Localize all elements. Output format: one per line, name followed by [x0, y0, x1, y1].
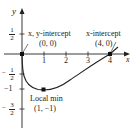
y-tick-half: 1 2 [8, 27, 16, 42]
origin-annotation-title: x, y-intercept [28, 30, 71, 38]
x-tick-4: 4 [108, 57, 112, 65]
x-tick-2: 2 [64, 57, 68, 65]
origin-annotation-coords: (0, 0) [39, 40, 56, 48]
y-axis-label: y [12, 7, 16, 16]
x-tick-3: 3 [86, 57, 90, 65]
x-axis-label: x [126, 56, 130, 64]
xint-annotation-title: x-intercept [86, 30, 121, 38]
y-tick-neg-half-sign: − [2, 70, 6, 77]
local-min-annotation-title: Local min [30, 95, 63, 103]
y-tick-neg-3half-sign: − [2, 105, 6, 112]
local-min-point [42, 88, 46, 92]
y-tick-neg-1: −1 [4, 85, 13, 93]
function-graph [0, 0, 134, 130]
function-curve [22, 47, 118, 90]
xint-annotation-coords: (4, 0) [95, 40, 112, 48]
y-axis-arrow-icon [20, 8, 25, 14]
y-tick-neg-half: 1 2 [8, 67, 16, 82]
origin-point [20, 52, 24, 56]
y-tick-neg-3half: 3 2 [8, 102, 16, 117]
local-min-annotation-coords: (1, −1) [34, 105, 56, 113]
x-tick-1: 1 [42, 57, 46, 65]
